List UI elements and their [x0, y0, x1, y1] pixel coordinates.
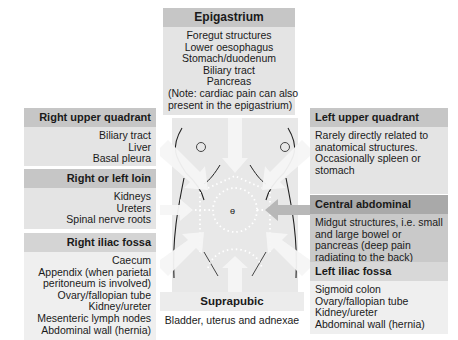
right-or-left-loin-body: Kidneys Ureters Spinal nerve roots: [24, 188, 156, 229]
left-upper-quadrant-line: Rarely directly related to: [315, 130, 443, 142]
central-abdominal-title: Central abdominal: [310, 195, 448, 214]
svg-text:ɵ: ɵ: [230, 206, 235, 216]
right-iliac-fossa-body: Caecum Appendix (when parietal peritoneu…: [24, 252, 156, 340]
central-abdominal-body: Midgut structures, i.e. small and large …: [310, 214, 448, 267]
left-iliac-fossa-title: Left iliac fossa: [310, 262, 448, 281]
left-upper-quadrant-title: Left upper quadrant: [310, 108, 448, 127]
left-upper-quadrant-panel: Left upper quadrant Rarely directly rela…: [310, 108, 448, 194]
epigastrium-panel: Epigastrium Foregut structures Lower oes…: [163, 8, 295, 115]
abdomen-diagram: ɵ: [160, 118, 310, 318]
right-iliac-fossa-line: Mesenteric lymph nodes: [29, 313, 151, 325]
suprapubic-title: Suprapubic: [160, 292, 304, 311]
left-iliac-fossa-body: Sigmoid colon Ovary/fallopian tube Kidne…: [310, 281, 448, 334]
right-iliac-fossa-line: Caecum: [29, 255, 151, 267]
right-upper-quadrant-line: Basal pleura: [29, 153, 151, 165]
epigastrium-title: Epigastrium: [163, 8, 295, 27]
right-upper-quadrant-line: Biliary tract: [29, 130, 151, 142]
epigastrium-line: (Note: cardiac pain can also: [168, 88, 290, 100]
left-iliac-fossa-panel: Left iliac fossa Sigmoid colon Ovary/fal…: [310, 262, 448, 334]
right-or-left-loin-line: Kidneys: [29, 191, 151, 203]
left-upper-quadrant-body: Rarely directly related to anatomical st…: [310, 127, 448, 194]
left-iliac-fossa-line: Abdominal wall (hernia): [315, 319, 443, 331]
suprapubic-line: Bladder, uterus and adnexae: [160, 315, 304, 327]
right-iliac-fossa-panel: Right iliac fossa Caecum Appendix (when …: [24, 233, 156, 340]
left-upper-quadrant-line: stomach: [315, 165, 443, 177]
right-iliac-fossa-line: Abdominal wall (hernia): [29, 325, 151, 337]
right-or-left-loin-title: Right or left loin: [24, 169, 156, 188]
epigastrium-line: present in the epigastrium): [168, 100, 290, 112]
right-upper-quadrant-body: Biliary tract Liver Basal pleura: [24, 127, 156, 166]
right-or-left-loin-panel: Right or left loin Kidneys Ureters Spina…: [24, 169, 156, 229]
left-iliac-fossa-line: Sigmoid colon: [315, 284, 443, 296]
right-upper-quadrant-title: Right upper quadrant: [24, 108, 156, 127]
epigastrium-line: Foregut structures: [168, 30, 290, 42]
central-abdominal-line: Midgut structures, i.e. small: [315, 217, 443, 229]
suprapubic-body: Bladder, uterus and adnexae: [160, 311, 304, 327]
central-abdominal-panel: Central abdominal Midgut structures, i.e…: [310, 195, 448, 267]
suprapubic-panel: Suprapubic Bladder, uterus and adnexae: [160, 292, 304, 327]
epigastrium-body: Foregut structures Lower oesophagus Stom…: [163, 27, 295, 115]
right-or-left-loin-line: Spinal nerve roots: [29, 214, 151, 226]
right-upper-quadrant-panel: Right upper quadrant Biliary tract Liver…: [24, 108, 156, 166]
right-iliac-fossa-title: Right iliac fossa: [24, 233, 156, 252]
